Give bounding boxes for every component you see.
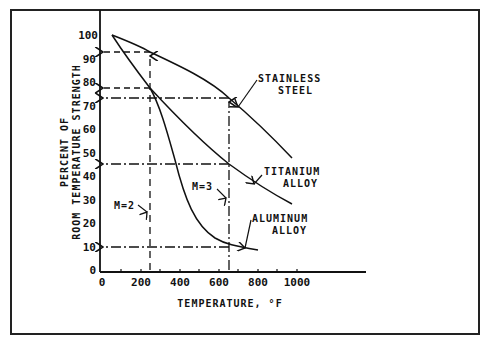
svg-text:10: 10	[83, 241, 96, 254]
aluminum-label-1: ALUMINUM	[252, 213, 308, 224]
svg-text:90: 90	[83, 53, 96, 66]
svg-text:1000: 1000	[284, 276, 311, 289]
svg-text:0: 0	[99, 276, 106, 289]
aluminum-alloy-curve	[150, 88, 258, 250]
svg-text:40: 40	[83, 170, 96, 183]
svg-text:70: 70	[83, 100, 96, 113]
y-axis-label-line1: PERCENT OF	[59, 117, 70, 187]
svg-text:20: 20	[83, 217, 96, 230]
titanium-label-1: TITANIUM	[264, 166, 320, 177]
strength-chart: 0 10 20 30 40 50 60 70 80 90 100 0 200 4…	[0, 0, 488, 341]
aluminum-label-2: ALLOY	[272, 225, 307, 236]
stainless-label-1: STAINLESS	[258, 73, 321, 84]
titanium-alloy-curve	[112, 35, 292, 204]
svg-text:800: 800	[248, 276, 268, 289]
m3-label: M=3	[192, 181, 213, 192]
svg-text:400: 400	[170, 276, 190, 289]
svg-text:80: 80	[83, 76, 96, 89]
titanium-label-2: ALLOY	[283, 178, 318, 189]
stainless-label-2: STEEL	[278, 85, 313, 96]
svg-text:200: 200	[131, 276, 151, 289]
svg-text:0: 0	[89, 264, 96, 277]
m2-label: M=2	[114, 200, 135, 211]
svg-text:100: 100	[78, 29, 98, 42]
y-axis-label-line2: ROOM TEMPERATURE STRENGTH	[71, 64, 82, 240]
svg-text:600: 600	[209, 276, 229, 289]
svg-text:50: 50	[83, 147, 96, 160]
stainless-steel-curve	[112, 35, 292, 158]
x-axis-label: TEMPERATURE, °F	[177, 298, 282, 309]
svg-text:30: 30	[83, 194, 96, 207]
svg-text:60: 60	[83, 123, 96, 136]
